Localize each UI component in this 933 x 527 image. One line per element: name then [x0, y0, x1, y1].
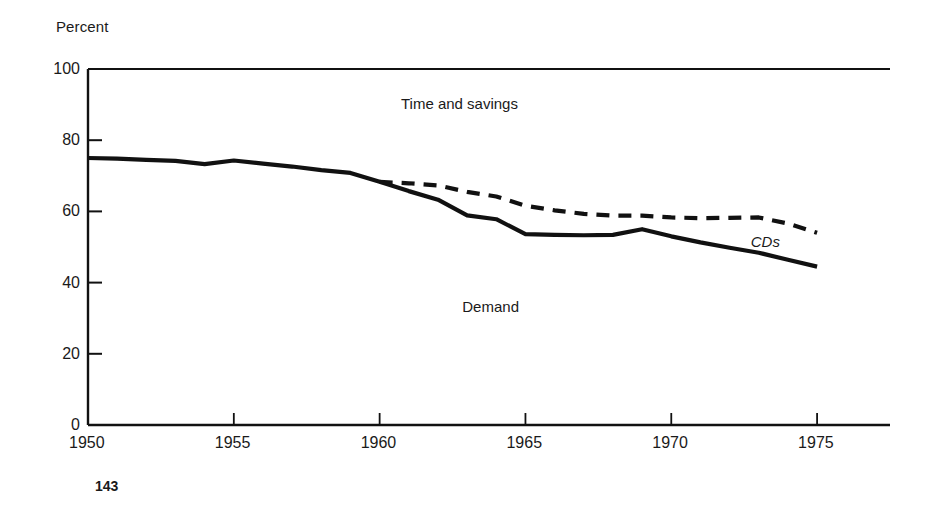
chart-canvas [0, 0, 933, 527]
x-axis-tick-label: 1970 [652, 435, 688, 451]
figure-container: Percent 020406080100 1950195519601965197… [0, 0, 933, 527]
page-number: 143 [95, 478, 118, 494]
y-axis-tick-label: 100 [36, 61, 80, 77]
series-layer [88, 158, 817, 267]
y-axis-tick-label: 20 [36, 346, 80, 362]
x-axis-tick-label: 1975 [798, 435, 834, 451]
series-label-demand: Demand [462, 298, 519, 315]
x-axis-tick-label: 1960 [361, 435, 397, 451]
y-axis-tick-label: 40 [36, 275, 80, 291]
series-line-solid [88, 158, 817, 267]
y-axis-tick-label: 80 [36, 132, 80, 148]
x-axis-tick-label: 1965 [506, 435, 542, 451]
y-axis-ticks [88, 140, 102, 354]
y-axis-tick-label: 0 [36, 417, 80, 433]
series-line-dashed [380, 182, 817, 233]
y-axis-tick-label: 60 [36, 203, 80, 219]
annotation-label-cds: CDs [751, 233, 780, 250]
series-label-time-and-savings: Time and savings [401, 95, 518, 112]
x-axis-tick-label: 1955 [215, 435, 251, 451]
x-axis-tick-label: 1950 [69, 435, 105, 451]
x-axis-ticks [234, 413, 817, 425]
